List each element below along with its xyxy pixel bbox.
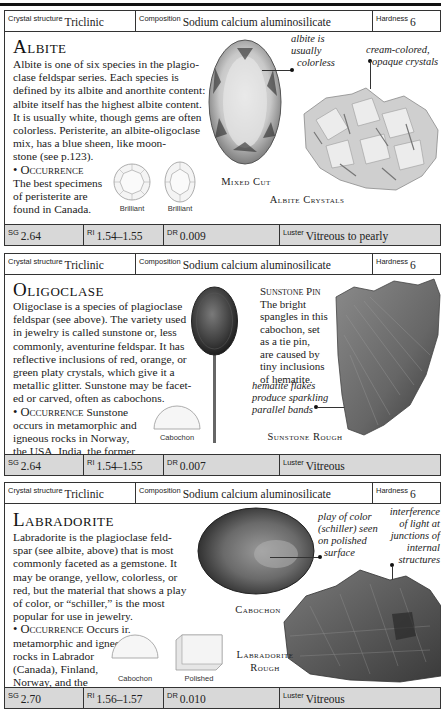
sg-cell: SG 2.70 (5, 688, 84, 708)
dr-cell: DR 0.007 (164, 455, 280, 475)
sg-label: SG (8, 688, 19, 700)
luster-label: Luster (283, 455, 304, 467)
crystal-structure-label: Crystal structure (8, 254, 63, 266)
top-rule (0, 3, 441, 6)
text-line: may be orange, yellow, colorless, or (13, 571, 186, 584)
text-line: hematite flakes (252, 380, 328, 392)
text-line: of light at (384, 518, 440, 530)
labradorite-title: Labradorite (13, 509, 114, 531)
luster-value: Vitreous to pearly (306, 230, 388, 242)
albite-title: Albite (13, 36, 67, 58)
interference-annotation: interference of light at junctions of in… (384, 506, 440, 566)
text-line: It is usually white, though gems are oft… (13, 111, 205, 124)
leader-line (270, 557, 320, 558)
dr-label: DR (167, 455, 178, 467)
mixed-cut-caption: Mixed Cut (204, 176, 288, 187)
text-line: Oligoclase is a species of plagioclase (13, 300, 191, 313)
ri-cell: RI 1.54–1.55 (84, 225, 164, 245)
crystal-structure-cell: Crystal structure Triclinic (5, 11, 136, 31)
luster-value: Vitreous (306, 693, 345, 705)
text-line: reflective inclusions of red, orange, or (13, 353, 191, 366)
crystal-structure-cell: Crystal structure Triclinic (5, 483, 136, 503)
hardness-label: Hardness (376, 483, 408, 495)
crystal-structure-label: Crystal structure (8, 11, 63, 23)
text-line: defined by its albite and anorthite cont… (13, 84, 205, 97)
text-line: green platy crystals, which give it a (13, 366, 191, 379)
labradorite-rough-caption: Labradorite Rough (224, 648, 306, 674)
cabochon-diagram (111, 633, 159, 659)
text-line: colorless (291, 57, 335, 69)
sunstone-pin-caption: Sunstone Pin (260, 285, 328, 298)
dr-value: 0.010 (180, 693, 206, 705)
text-line: as a tie pin, (260, 335, 328, 348)
ri-label: RI (87, 688, 95, 700)
text-line: rocks in Labrador (13, 650, 186, 663)
luster-value: Vitreous (306, 460, 345, 472)
text-line: Labradorite is the plagioclase feld- (13, 531, 186, 544)
text-line: spar (see albite, above) that is most (13, 544, 186, 557)
brilliant-oval-cut-diagram (163, 160, 197, 204)
luster-cell: Luster Vitreous (280, 455, 440, 475)
text-line: internal (384, 542, 440, 554)
composition-cell: Composition Sodium calcium aluminosilica… (136, 11, 373, 31)
text-line: The bright (260, 298, 328, 311)
crystal-structure-cell: Crystal structure Triclinic (5, 254, 136, 274)
ri-label: RI (87, 225, 95, 237)
text-line: in jewelry is called sunstone or, less (13, 326, 191, 339)
crystal-structure-value: Triclinic (65, 488, 104, 500)
crystal-structure-value: Triclinic (65, 259, 104, 271)
hardness-value: 6 (410, 259, 416, 271)
labradorite-header-bar: Crystal structure Triclinic Composition … (4, 482, 441, 504)
composition-value: Sodium calcium aluminosilicate (183, 16, 331, 28)
text-line: interference (384, 506, 440, 518)
dr-value: 0.007 (180, 460, 206, 472)
labradorite-footer-bar: SG 2.70 RI 1.56–1.57 DR 0.010 Luster Vit… (4, 687, 441, 709)
ri-value: 1.54–1.55 (97, 460, 143, 472)
occurrence-heading: • Occurrence (13, 405, 84, 419)
schiller-annotation: play of color (schiller) seen on polishe… (318, 511, 378, 559)
polished-label: Polished (172, 674, 226, 683)
cabochon-label: Cabochon (108, 674, 162, 683)
composition-value: Sodium calcium aluminosilicate (183, 259, 331, 271)
oligoclase-title: Oligoclase (13, 279, 104, 301)
dr-cell: DR 0.009 (164, 225, 280, 245)
hardness-cell: Hardness 6 (373, 11, 440, 31)
luster-cell: Luster Vitreous to pearly (280, 225, 440, 245)
text-line: (schiller) seen (318, 523, 378, 535)
composition-label: Composition (139, 11, 181, 23)
leader-dot (290, 68, 294, 72)
albite-crystals-image (296, 84, 441, 194)
text-line: metallic glitter. Sunstone may be facet- (13, 379, 191, 392)
albite-footer-bar: SG 2.64 RI 1.54–1.55 DR 0.009 Luster Vit… (4, 224, 441, 246)
text-line: albite is (291, 33, 335, 45)
occurrence-line: • Occurrence Occurs ir. (13, 623, 186, 636)
hardness-label: Hardness (376, 11, 408, 23)
sunstone-pin-image (190, 285, 240, 445)
text-line: spangles in this (260, 310, 328, 323)
text-line: play of color (318, 511, 378, 523)
albite-crystals-caption: Albite Crystals (252, 194, 362, 205)
oligoclase-description: Oligoclase is a species of plagioclase f… (13, 300, 191, 472)
text-line: albite itself has the highest albite con… (13, 98, 205, 111)
text-line: clase feldspar series. Each species is (13, 71, 205, 84)
ri-cell: RI 1.54–1.55 (84, 455, 164, 475)
text-line: surface (318, 547, 378, 559)
hardness-cell: Hardness 6 (373, 254, 440, 274)
text-line: red, but the material that shows a play (13, 584, 186, 597)
cream-colored-annotation: cream-colored, opaque crystals (366, 44, 438, 68)
text-line: usually (291, 45, 335, 57)
text-line: junctions of (384, 530, 440, 542)
text-line: produce sparkling (252, 392, 328, 404)
composition-cell: Composition Sodium calcium aluminosilica… (136, 254, 373, 274)
text-line: feldspar (see above). The variety used (13, 313, 191, 326)
hematite-flakes-annotation: hematite flakes produce sparkling parall… (252, 380, 328, 416)
dr-label: DR (167, 688, 178, 700)
leader-line (262, 70, 292, 71)
hardness-label: Hardness (376, 254, 408, 266)
brilliant-label: Brilliant (110, 204, 154, 213)
sg-value: 2.64 (21, 230, 41, 242)
ri-value: 1.54–1.55 (97, 230, 143, 242)
sunstone-pin-description: Sunstone Pin The bright spangles in this… (260, 285, 328, 385)
text-line: are caused by (260, 348, 328, 361)
leader-dot (318, 555, 322, 559)
